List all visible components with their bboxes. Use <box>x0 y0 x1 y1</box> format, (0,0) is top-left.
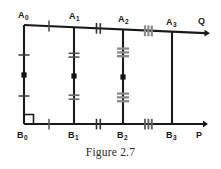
vertex-label-A0-subscript: 0 <box>25 14 29 21</box>
top-ray-A0-Q <box>24 25 210 37</box>
vertex-label-A2: A2 <box>118 15 129 26</box>
vertex-label-B1: B1 <box>68 131 79 142</box>
vertex-label-B3: B3 <box>166 131 177 142</box>
ray-endpoint-label-Q: Q <box>198 17 205 26</box>
right-angle-marker-B0 <box>24 115 34 125</box>
figure-caption: Figure 2.7 <box>0 146 221 158</box>
vertex-label-B3-base: B <box>166 130 173 140</box>
vertex-label-A0: A0 <box>18 11 29 22</box>
vertex-label-A3-subscript: 3 <box>173 21 177 28</box>
vertex-label-A3-base: A <box>166 17 173 27</box>
top-segment-tick-group <box>49 21 152 37</box>
midpoint-dot-A0B0 <box>21 72 26 77</box>
vertex-label-A1-subscript: 1 <box>76 15 80 22</box>
geometry-diagram-svg <box>0 0 221 169</box>
vertex-label-A3: A3 <box>166 18 177 29</box>
vertical-segment-A1B1 <box>69 27 80 124</box>
vertex-label-B0: B0 <box>17 131 28 142</box>
vertex-label-A1: A1 <box>69 12 80 23</box>
vertex-label-B2-base: B <box>117 130 124 140</box>
vertex-label-B0-subscript: 0 <box>24 134 28 141</box>
vertex-label-B3-subscript: 3 <box>173 134 177 141</box>
bottom-ray-arrowhead-icon <box>203 121 208 128</box>
top-ray-arrowhead-icon <box>204 30 210 37</box>
top-ray-line <box>24 25 205 33</box>
vertex-label-B2: B2 <box>117 131 128 142</box>
vertex-label-B2-subscript: 2 <box>124 134 128 141</box>
vertical-segment-A2B2 <box>117 30 129 124</box>
bottom-ray-B0-P <box>24 121 208 128</box>
midpoint-dot-A1B1 <box>71 73 76 78</box>
vertex-label-A0-base: A <box>18 10 25 20</box>
vertex-label-B1-subscript: 1 <box>75 134 79 141</box>
figure-container: A0 A1 A2 A3 Q B0 B1 B2 B3 P Figure 2.7 <box>0 0 221 169</box>
vertex-label-B0-base: B <box>17 130 24 140</box>
midpoint-dot-A2B2 <box>120 74 125 79</box>
vertex-label-A1-base: A <box>69 11 76 21</box>
vertex-label-A2-subscript: 2 <box>125 18 129 25</box>
vertex-label-B1-base: B <box>68 130 75 140</box>
right-angle-square-icon <box>24 115 34 125</box>
ray-endpoint-label-P: P <box>196 131 202 140</box>
vertical-segment-A0B0 <box>19 25 30 124</box>
vertex-label-A2-base: A <box>118 14 125 24</box>
